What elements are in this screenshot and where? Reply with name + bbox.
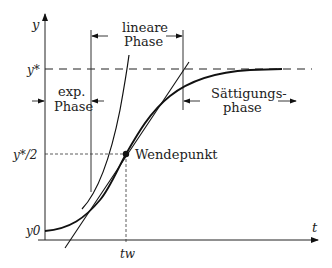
saturation-phase-label-2: phase <box>223 100 262 115</box>
y-star-label: y* <box>26 63 40 77</box>
linear-phase-label-2: Phase <box>124 34 164 49</box>
y-zero-label: y0 <box>25 224 41 238</box>
saturation-phase-label-1: Sättigungs- <box>211 86 287 101</box>
y-axis-label: y <box>31 17 40 32</box>
exp-phase-label-1: exp. <box>58 84 85 99</box>
inflection-point <box>123 151 129 157</box>
linear-phase-label-1: lineare <box>122 20 168 35</box>
y-star-half-label: y*/2 <box>12 148 37 162</box>
exponential-curve <box>82 55 129 209</box>
inflection-label: Wendepunkt <box>135 147 218 162</box>
t-axis-label: t <box>312 220 318 235</box>
logistic-growth-diagram: y t y* y*/2 y0 tw lineare Phase exp. Pha… <box>0 0 332 268</box>
t-w-label: tw <box>120 247 136 261</box>
exp-phase-label-2: Phase <box>54 99 94 114</box>
